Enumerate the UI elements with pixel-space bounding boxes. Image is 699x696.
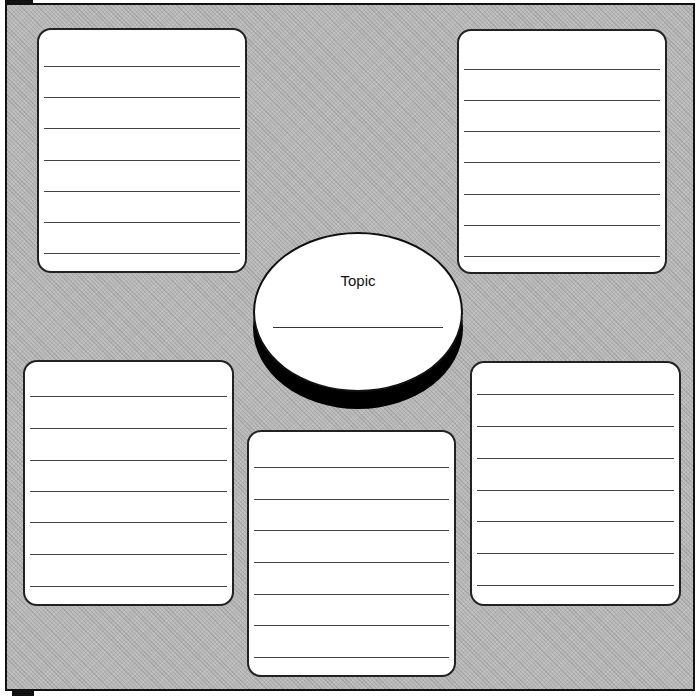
writing-line[interactable]: [477, 585, 674, 586]
writing-line[interactable]: [254, 467, 449, 468]
writing-line[interactable]: [477, 553, 674, 554]
writing-line[interactable]: [477, 490, 674, 491]
writing-line[interactable]: [30, 460, 227, 461]
writing-line[interactable]: [254, 625, 449, 626]
writing-line[interactable]: [254, 562, 449, 563]
writing-line[interactable]: [477, 394, 674, 395]
writing-box-bottom-center[interactable]: [247, 430, 456, 677]
writing-line[interactable]: [477, 521, 674, 522]
writing-line[interactable]: [464, 194, 660, 195]
topic-writing-line[interactable]: [273, 327, 443, 328]
writing-line[interactable]: [477, 458, 674, 459]
writing-line[interactable]: [254, 594, 449, 595]
writing-line[interactable]: [464, 225, 660, 226]
writing-box-bottom-left[interactable]: [23, 360, 234, 606]
writing-line[interactable]: [30, 586, 227, 587]
writing-line[interactable]: [30, 491, 227, 492]
writing-line[interactable]: [30, 396, 227, 397]
writing-line[interactable]: [30, 428, 227, 429]
writing-line[interactable]: [254, 530, 449, 531]
writing-line[interactable]: [464, 162, 660, 163]
writing-box-bottom-right[interactable]: [470, 361, 681, 606]
writing-line[interactable]: [44, 222, 240, 223]
writing-line[interactable]: [30, 522, 227, 523]
writing-box-top-left[interactable]: [37, 28, 247, 273]
frame-corner-mark: [12, 689, 34, 696]
writing-line[interactable]: [254, 499, 449, 500]
writing-line[interactable]: [464, 131, 660, 132]
writing-line[interactable]: [464, 100, 660, 101]
topic-label: Topic: [255, 272, 461, 289]
writing-line[interactable]: [44, 66, 240, 67]
writing-line[interactable]: [44, 128, 240, 129]
writing-box-top-right[interactable]: [457, 29, 667, 274]
topic-ellipse[interactable]: Topic: [253, 232, 463, 392]
writing-line[interactable]: [464, 69, 660, 70]
writing-line[interactable]: [44, 191, 240, 192]
writing-line[interactable]: [44, 97, 240, 98]
writing-line[interactable]: [30, 554, 227, 555]
writing-line[interactable]: [464, 256, 660, 257]
writing-line[interactable]: [477, 426, 674, 427]
writing-line[interactable]: [254, 657, 449, 658]
writing-line[interactable]: [44, 160, 240, 161]
writing-line[interactable]: [44, 253, 240, 254]
